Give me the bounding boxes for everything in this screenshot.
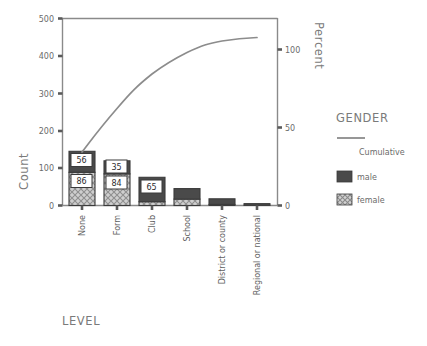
- left-tick-300: 300: [39, 90, 54, 99]
- legend-title: GENDER: [336, 111, 389, 125]
- bar-school-female[interactable]: [174, 199, 200, 205]
- data-label-form-male: 35: [106, 160, 127, 173]
- right-tick-100: 100: [285, 46, 300, 55]
- left-tick-0: 0: [49, 202, 54, 211]
- data-label-form-female: 84: [106, 176, 127, 189]
- cat-label-none: None: [78, 215, 87, 236]
- left-tick-200: 200: [39, 127, 54, 136]
- cat-label-form: Form: [113, 215, 122, 235]
- data-label-none-female-text: 86: [76, 177, 86, 186]
- legend-swatch-female[interactable]: [337, 194, 352, 205]
- x-axis-title: LEVEL: [62, 314, 100, 328]
- bar-regional-male[interactable]: [244, 204, 270, 206]
- left-tick-500: 500: [39, 15, 54, 24]
- legend: GENDER Cumulative male female: [336, 111, 405, 205]
- cat-label-district-or-county: District or county: [218, 215, 227, 285]
- left-tick-400: 400: [39, 52, 54, 61]
- y-axis-title: Count: [17, 153, 31, 190]
- bar-group-school[interactable]: [174, 189, 200, 206]
- legend-swatch-male[interactable]: [337, 171, 352, 182]
- data-label-none-male: 56: [71, 154, 92, 167]
- right-tick-50: 50: [285, 124, 295, 133]
- legend-label-male: male: [357, 173, 377, 182]
- cat-label-regional-or-national: Regional or national: [253, 215, 262, 295]
- bar-district-male[interactable]: [209, 199, 235, 205]
- legend-label-cumulative: Cumulative: [359, 148, 405, 157]
- data-label-form-male-text: 35: [111, 163, 121, 172]
- bar-group-district-or-county[interactable]: [209, 199, 235, 206]
- data-label-none-female: 86: [71, 175, 92, 188]
- cumulative-line: [82, 38, 257, 153]
- data-label-club-male: 65: [141, 180, 162, 193]
- legend-label-female: female: [357, 196, 385, 205]
- data-label-none-male-text: 56: [76, 156, 86, 165]
- data-label-form-female-text: 84: [111, 179, 121, 188]
- right-axis-tick-labels: 100 50 0: [285, 46, 300, 211]
- bar-club-female[interactable]: [139, 202, 165, 206]
- cat-label-school: School: [183, 215, 192, 242]
- bar-group-regional-or-national[interactable]: [244, 204, 270, 206]
- chart-canvas: 500 400 300 200 100 0 Count 100 50 0 Per…: [0, 0, 427, 346]
- bar-school-male[interactable]: [174, 189, 200, 200]
- category-labels: None Form Club School District or county…: [78, 215, 262, 295]
- left-tick-100: 100: [39, 164, 54, 173]
- cat-label-club: Club: [148, 215, 157, 233]
- left-axis-tick-labels: 500 400 300 200 100 0: [39, 15, 54, 211]
- pareto-chart: 500 400 300 200 100 0 Count 100 50 0 Per…: [0, 0, 427, 346]
- y2-axis-title: Percent: [312, 22, 326, 69]
- right-tick-0: 0: [285, 202, 290, 211]
- data-label-club-male-text: 65: [146, 183, 156, 192]
